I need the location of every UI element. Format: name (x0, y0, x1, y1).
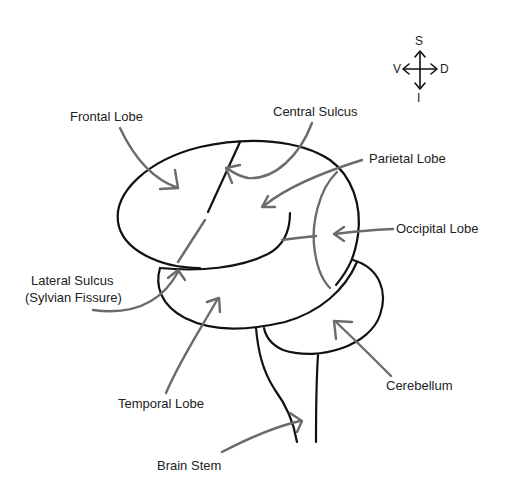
temporal-lobe-outline (158, 262, 357, 329)
label-lateral-sulcus: Lateral Sulcus (31, 273, 113, 289)
compass-icon (403, 51, 437, 89)
central-sulcus-lower (178, 220, 205, 262)
label-parietal-lobe: Parietal Lobe (369, 151, 446, 167)
brain-drawing (0, 0, 509, 494)
compass-inferior-label: I (417, 92, 420, 105)
label-occipital-lobe: Occipital Lobe (396, 221, 478, 237)
brain-diagram: S V D I Frontal Lobe Central Sulcus Pari… (0, 0, 509, 494)
compass-dorsal-label: D (440, 63, 449, 76)
central-sulcus-arrow (226, 123, 312, 183)
occipital-lobe-arrow (334, 227, 393, 241)
brain-stem-right (316, 355, 318, 442)
cerebellum-outline (264, 260, 383, 354)
parietal-occipital-line (282, 236, 316, 240)
label-brain-stem: Brain Stem (157, 458, 221, 474)
compass-superior-label: S (415, 35, 423, 48)
label-temporal-lobe: Temporal Lobe (118, 396, 204, 412)
occipital-boundary (314, 172, 337, 288)
parietal-lobe-arrow (262, 160, 362, 207)
compass-ventral-label: V (393, 63, 401, 76)
label-central-sulcus: Central Sulcus (273, 104, 358, 120)
central-sulcus-line (208, 142, 240, 212)
label-sylvian-fissure: (Sylvian Fissure) (25, 290, 122, 306)
label-cerebellum: Cerebellum (386, 378, 452, 394)
label-frontal-lobe: Frontal Lobe (70, 109, 143, 125)
